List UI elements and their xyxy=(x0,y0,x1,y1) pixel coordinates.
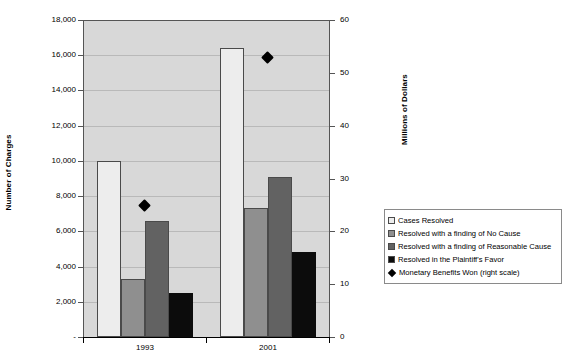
bar xyxy=(244,208,268,337)
y-tick-label-left: 14,000 xyxy=(30,85,76,94)
legend-swatch-icon xyxy=(388,256,395,263)
bar xyxy=(145,221,169,337)
x-axis-category-label: 1993 xyxy=(110,343,180,352)
y-tick-mark-right xyxy=(330,179,335,180)
gridline xyxy=(84,126,329,127)
gridline xyxy=(84,55,329,56)
y-tick-label-right: 40 xyxy=(340,121,370,130)
legend-swatch-icon xyxy=(388,243,395,250)
legend-item-label: Resolved with a finding of No Cause xyxy=(398,230,520,238)
y-tick-mark-right xyxy=(330,73,335,74)
y-tick-label-left: - xyxy=(30,332,76,341)
chart-container: Number of Charges Millions of Dollars -2… xyxy=(0,0,571,362)
y-tick-label-left: 8,000 xyxy=(30,191,76,200)
legend-item-label: Resolved with a finding of Reasonable Ca… xyxy=(398,243,551,251)
y-axis-left-line xyxy=(83,20,84,338)
gridline xyxy=(84,90,329,91)
y-tick-label-right: 60 xyxy=(340,15,370,24)
y-tick-label-right: 0 xyxy=(340,332,370,341)
legend-swatch-icon xyxy=(388,217,395,224)
y-tick-mark-left xyxy=(78,55,83,56)
y-tick-mark-left xyxy=(78,20,83,21)
y-tick-mark-right xyxy=(330,231,335,232)
y-tick-mark-left xyxy=(78,196,83,197)
y-tick-label-right: 50 xyxy=(340,68,370,77)
legend-item-label: Monetary Benefits Won (right scale) xyxy=(399,269,520,277)
chart-legend: Cases ResolvedResolved with a finding of… xyxy=(384,209,562,284)
legend-item-label: Resolved in the Plaintiff's Favor xyxy=(398,256,504,264)
bar xyxy=(292,252,316,337)
y-tick-mark-right xyxy=(330,337,335,338)
y-tick-mark-left xyxy=(78,90,83,91)
legend-item[interactable]: Resolved with a finding of No Cause xyxy=(388,227,558,240)
x-tick-mark xyxy=(83,338,84,343)
y-tick-mark-right xyxy=(330,284,335,285)
bar xyxy=(220,48,244,337)
y-tick-label-left: 6,000 xyxy=(30,226,76,235)
y-tick-label-left: 18,000 xyxy=(30,15,76,24)
legend-item[interactable]: Cases Resolved xyxy=(388,214,558,227)
y-tick-mark-left xyxy=(78,231,83,232)
legend-swatch-icon xyxy=(388,230,395,237)
legend-item-label: Cases Resolved xyxy=(398,217,453,225)
y-axis-right-title: Millions of Dollars xyxy=(400,55,409,165)
legend-item[interactable]: Resolved with a finding of Reasonable Ca… xyxy=(388,240,558,253)
legend-item[interactable]: Resolved in the Plaintiff's Favor xyxy=(388,253,558,266)
y-tick-mark-left xyxy=(78,267,83,268)
legend-diamond-icon xyxy=(388,268,396,276)
x-tick-mark xyxy=(206,338,207,343)
bar xyxy=(169,293,193,337)
y-tick-label-left: 12,000 xyxy=(30,121,76,130)
plot-top-border xyxy=(83,20,330,21)
y-tick-mark-left xyxy=(78,161,83,162)
bar xyxy=(121,279,145,337)
y-tick-label-left: 2,000 xyxy=(30,297,76,306)
y-tick-mark-left xyxy=(78,126,83,127)
y-tick-label-left: 16,000 xyxy=(30,50,76,59)
x-tick-mark xyxy=(329,338,330,343)
y-tick-label-left: 4,000 xyxy=(30,262,76,271)
y-tick-mark-left xyxy=(78,302,83,303)
y-tick-mark-right xyxy=(330,20,335,21)
y-tick-label-right: 20 xyxy=(340,226,370,235)
bar xyxy=(97,161,121,337)
x-axis-category-label: 2001 xyxy=(233,343,303,352)
y-tick-label-right: 30 xyxy=(340,174,370,183)
bar xyxy=(268,177,292,337)
legend-item[interactable]: Monetary Benefits Won (right scale) xyxy=(388,266,558,279)
y-tick-label-right: 10 xyxy=(340,279,370,288)
y-tick-mark-right xyxy=(330,126,335,127)
y-tick-label-left: 10,000 xyxy=(30,156,76,165)
y-axis-left-title: Number of Charges xyxy=(4,118,13,228)
